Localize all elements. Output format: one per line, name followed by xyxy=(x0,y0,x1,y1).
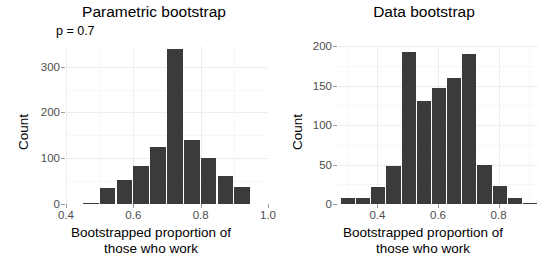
histogram-bar xyxy=(83,203,99,204)
y-tick-label: 100 xyxy=(286,119,332,131)
histogram-bar xyxy=(100,188,116,204)
gridline-vertical-major xyxy=(377,46,378,204)
histogram-bar xyxy=(371,187,385,204)
gridline-vertical-minor xyxy=(100,46,101,204)
x-tick-mark xyxy=(133,204,134,208)
y-tick-label: 0 xyxy=(286,198,332,210)
histogram-bar xyxy=(117,180,133,204)
plot-area-left xyxy=(66,46,268,204)
histogram-bar xyxy=(234,187,250,204)
x-tick-mark xyxy=(66,204,67,208)
gridline-vertical-minor xyxy=(529,46,530,204)
x-axis-title-left-line1: Bootstrapped proportion of xyxy=(71,225,231,240)
y-tick-label: 200 xyxy=(14,106,60,118)
histogram-bar xyxy=(218,176,234,204)
gridline-vertical-minor xyxy=(234,46,235,204)
chart-title-left: Parametric bootstrap xyxy=(42,3,266,21)
histogram-bar xyxy=(133,166,149,204)
y-tick-mark xyxy=(61,67,65,68)
y-tick-mark xyxy=(333,125,337,126)
x-axis-title-right: Bootstrapped proportion of those who wor… xyxy=(304,225,542,257)
y-tick-mark xyxy=(61,204,65,205)
y-axis-title-left: Count xyxy=(16,114,31,150)
x-tick-mark xyxy=(377,204,378,208)
x-axis-title-right-line2: those who work xyxy=(376,241,470,256)
histogram-bar xyxy=(356,198,370,204)
panel-parametric-bootstrap: Parametric bootstrap p = 0.7 Count 01002… xyxy=(0,0,280,272)
x-axis-title-left: Bootstrapped proportion of those who wor… xyxy=(30,225,272,257)
y-tick-label: 300 xyxy=(14,61,60,73)
y-tick-mark xyxy=(61,112,65,113)
gridline-vertical-minor xyxy=(347,46,348,204)
x-tick-label: 0.8 xyxy=(181,209,221,221)
gridline-vertical-major xyxy=(499,46,500,204)
histogram-bar xyxy=(167,49,183,204)
x-tick-mark xyxy=(438,204,439,208)
y-tick-mark xyxy=(333,46,337,47)
histogram-bar xyxy=(341,198,355,204)
chart-title-right: Data bootstrap xyxy=(310,3,538,21)
x-tick-mark xyxy=(201,204,202,208)
x-tick-label: 0.6 xyxy=(113,209,153,221)
x-tick-label: 0.4 xyxy=(357,209,397,221)
x-tick-label: 0.4 xyxy=(46,209,86,221)
y-tick-mark xyxy=(333,165,337,166)
x-tick-mark xyxy=(268,204,269,208)
chart-subtitle-left: p = 0.7 xyxy=(56,24,95,39)
histogram-bar xyxy=(184,140,200,204)
y-tick-label: 50 xyxy=(286,159,332,171)
x-axis-title-left-line2: those who work xyxy=(104,241,198,256)
y-tick-label: 200 xyxy=(286,40,332,52)
histogram-bar xyxy=(477,165,491,204)
y-tick-mark xyxy=(333,204,337,205)
histogram-bar xyxy=(447,78,461,204)
histogram-bar xyxy=(493,186,507,204)
histogram-bar xyxy=(201,158,217,204)
histogram-bar xyxy=(523,203,537,204)
histogram-bar xyxy=(417,101,431,204)
x-tick-label: 0.8 xyxy=(479,209,519,221)
gridline-vertical-major xyxy=(66,46,67,204)
x-tick-mark xyxy=(499,204,500,208)
histogram-figure: Parametric bootstrap p = 0.7 Count 01002… xyxy=(0,0,548,272)
y-tick-mark xyxy=(61,158,65,159)
histogram-bar xyxy=(462,54,476,204)
y-tick-mark xyxy=(333,86,337,87)
histogram-bar xyxy=(386,166,400,204)
y-tick-label: 100 xyxy=(14,152,60,164)
histogram-bar xyxy=(508,198,522,204)
x-axis-title-right-line1: Bootstrapped proportion of xyxy=(343,225,503,240)
histogram-bar xyxy=(402,52,416,204)
x-tick-label: 0.6 xyxy=(418,209,458,221)
panel-data-bootstrap: Data bootstrap Count 0501001502000.40.60… xyxy=(280,0,548,272)
y-tick-label: 150 xyxy=(286,80,332,92)
plot-area-right xyxy=(338,46,538,204)
histogram-bar xyxy=(432,88,446,204)
histogram-bar xyxy=(150,147,166,204)
